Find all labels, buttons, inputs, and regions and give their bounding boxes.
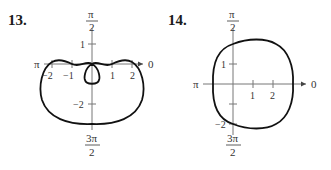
angle-label-pi-over-2-num: π — [229, 8, 235, 20]
graph-13: π 2 π 0 3π 2 −2 −1 1 2 1 −2 — [34, 8, 154, 158]
angle-label-zero: 0 — [148, 58, 154, 70]
x-tick-label: 2 — [270, 90, 275, 101]
polar-graphs: π 2 π 0 3π 2 −2 −1 1 2 1 −2 π 2 π 0 3π — [0, 0, 331, 170]
x-tick-label: −1 — [63, 70, 74, 81]
y-tick-label: 1 — [221, 59, 226, 70]
angle-label-pi: π — [193, 78, 199, 90]
x-tick-label: −2 — [42, 70, 53, 81]
angle-label-pi-over-2-den: 2 — [89, 21, 95, 33]
angle-label-3pi-over-2-den: 2 — [230, 146, 236, 158]
y-tick-label: −2 — [73, 99, 84, 110]
angle-label-pi: π — [34, 58, 40, 70]
y-tick-label: 1 — [80, 39, 85, 50]
angle-label-zero: 0 — [311, 78, 317, 90]
x-tick-label: 1 — [250, 90, 255, 101]
angle-label-pi-over-2-den: 2 — [230, 21, 236, 33]
graph-14: π 2 π 0 3π 2 1 2 1 −2 — [193, 8, 317, 158]
x-tick-label: 1 — [110, 70, 115, 81]
y-tick-label: −2 — [215, 119, 226, 130]
angle-label-pi-over-2-num: π — [88, 8, 94, 20]
x-tick-label: 2 — [130, 70, 135, 81]
angle-label-3pi-over-2-num: 3π — [86, 132, 98, 144]
angle-label-3pi-over-2-den: 2 — [89, 146, 95, 158]
angle-label-3pi-over-2-num: 3π — [227, 132, 239, 144]
